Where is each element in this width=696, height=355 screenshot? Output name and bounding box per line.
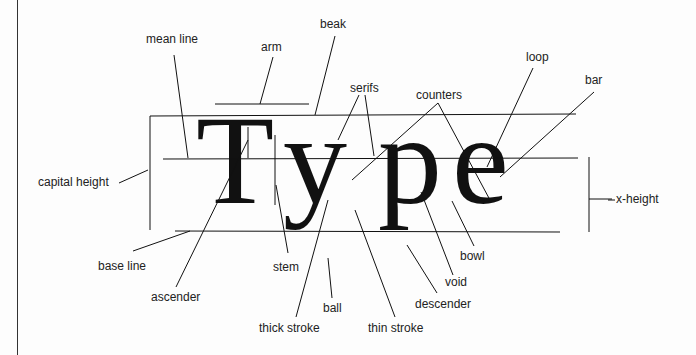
label-stem: stem: [273, 260, 299, 274]
mean-line: [163, 158, 578, 159]
label-capital-height: capital height: [38, 175, 109, 189]
label-ball: ball: [323, 301, 342, 315]
label-thin-stroke: thin stroke: [368, 321, 423, 335]
label-serifs: serifs: [350, 81, 379, 95]
base-line: [175, 231, 560, 232]
cap-line: [150, 114, 576, 116]
label-bar: bar: [585, 73, 602, 87]
label-base-line: base line: [98, 259, 146, 273]
label-bowl: bowl: [460, 249, 485, 263]
label-descender: descender: [415, 297, 471, 311]
label-loop: loop: [526, 50, 549, 64]
label-counters: counters: [416, 88, 462, 102]
label-arm: arm: [261, 40, 282, 54]
typography-anatomy-diagram: T y p e: [0, 0, 696, 355]
label-beak: beak: [320, 17, 346, 31]
label-void: void: [445, 275, 467, 289]
label-thick-stroke: thick stroke: [259, 321, 320, 335]
label-mean-line: mean line: [146, 32, 198, 46]
label-ascender: ascender: [151, 290, 200, 304]
label-x-height: x-height: [616, 192, 659, 206]
